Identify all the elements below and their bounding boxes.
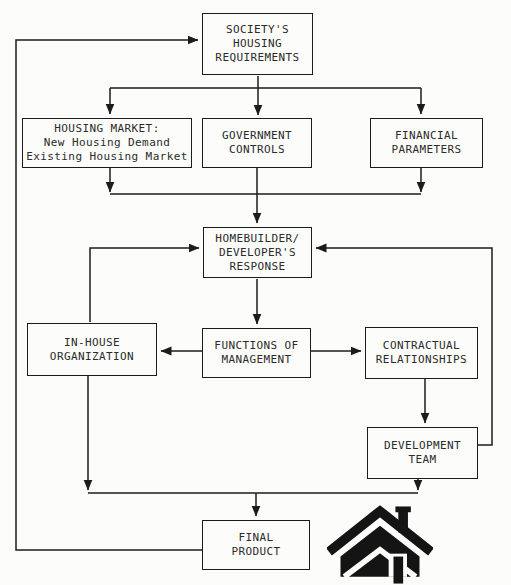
node-functions-of-management: FUNCTIONS OF MANAGEMENT xyxy=(202,328,311,378)
node-development-team: DEVELOPMENT TEAM xyxy=(367,427,478,479)
node-homebuilder-developers-response: HOMEBUILDER/ DEVELOPER'S RESPONSE xyxy=(203,227,312,278)
node-societys-housing-requirements: SOCIETY'S HOUSING REQUIREMENTS xyxy=(202,13,313,75)
node-financial-parameters: FINANCIAL PARAMETERS xyxy=(370,118,483,168)
node-government-controls: GOVERNMENT CONTROLS xyxy=(202,118,312,168)
node-contractual-relationships: CONTRACTUAL RELATIONSHIPS xyxy=(365,327,478,379)
flowchart-canvas: SOCIETY'S HOUSING REQUIREMENTS HOUSING M… xyxy=(0,0,511,585)
house-logo-icon xyxy=(327,505,433,585)
connector-lines xyxy=(0,0,511,585)
node-final-product: FINAL PRODUCT xyxy=(202,520,310,570)
node-housing-market: HOUSING MARKET: New Housing Demand Exist… xyxy=(22,118,192,168)
node-in-house-organization: IN-HOUSE ORGANIZATION xyxy=(27,323,157,376)
